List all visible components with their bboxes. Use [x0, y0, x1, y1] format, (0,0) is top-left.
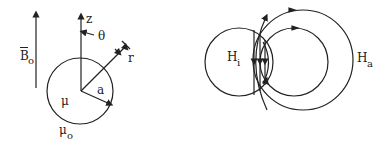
ha-label: H: [357, 52, 367, 64]
down-arrow-icon: [263, 59, 268, 64]
vector-bar: [20, 47, 28, 48]
theta-arrow-icon: [83, 32, 94, 35]
mu-inside-label: μ: [61, 95, 69, 107]
z-axis-label: z: [86, 13, 92, 25]
ha-inner-loop: [260, 28, 328, 96]
theta-label: θ: [98, 30, 105, 42]
down-arrow-icon: [258, 59, 263, 64]
mu0-subscript: o: [67, 131, 73, 141]
r-arrow-icon: [115, 49, 119, 53]
ha-subscript: a: [367, 59, 373, 69]
diagram-canvas: B o z θ r a μ μ o H i H a: [0, 0, 389, 148]
left-figure: [36, 14, 130, 124]
r-label: r: [128, 52, 134, 64]
b0-subscript: o: [28, 56, 34, 66]
mu0-label: μ: [59, 124, 67, 136]
radius-arrow-icon: [81, 91, 110, 104]
loop-arrow-icon: [292, 26, 298, 30]
hi-subscript: i: [237, 58, 240, 68]
radius-a-label: a: [97, 84, 104, 96]
hi-label: H: [227, 51, 237, 63]
